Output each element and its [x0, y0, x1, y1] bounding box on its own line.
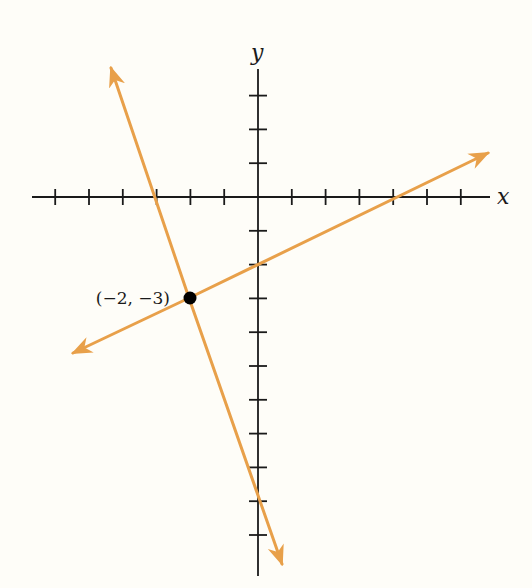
x-axis — [32, 189, 490, 205]
point-label: (−2, −3) — [96, 288, 170, 308]
line-1-lower — [189, 298, 282, 564]
intersection-point — [184, 292, 197, 305]
y-axis-label: y — [250, 40, 264, 65]
line-2 — [189, 153, 488, 298]
y-axis — [249, 69, 267, 576]
line-1 — [111, 68, 189, 298]
x-axis-label: x — [497, 184, 510, 209]
coordinate-graph: (−2, −3) x y — [0, 0, 532, 588]
